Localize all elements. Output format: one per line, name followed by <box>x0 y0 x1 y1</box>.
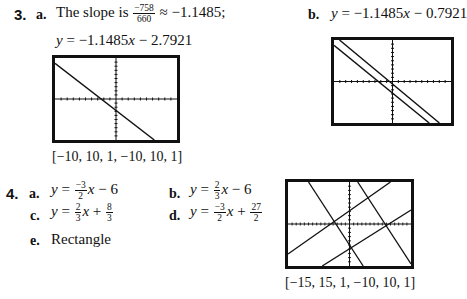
problem-3a-slope-text: The slope is −758660 ≈ −1.1485; <box>56 3 225 24</box>
problem-4e-label: e. <box>30 233 40 249</box>
window-label-3a: [−10, 10, 1, −10, 10, 1] <box>52 149 182 165</box>
problem-3b-label: b. <box>308 7 319 23</box>
eq-plus: + <box>233 203 249 219</box>
eq-tail: − 6 <box>94 181 117 197</box>
eq-tail: − 6 <box>228 181 251 197</box>
problem-4d-label: d. <box>169 208 180 224</box>
fraction-numerator: 27 <box>250 202 262 213</box>
fraction-denominator: 2 <box>250 213 262 223</box>
graph-3a <box>52 55 180 143</box>
line-3a <box>55 63 154 140</box>
graph-4-plot <box>288 182 411 266</box>
problem-4e-answer: Rectangle <box>51 231 111 248</box>
problem-4a-label: a. <box>29 186 40 202</box>
problem-4b-equation: y = 23x − 6 <box>190 180 252 201</box>
graph-3b-plot <box>334 40 451 123</box>
problem-3-number: 3. <box>14 6 27 23</box>
graph-3b <box>331 37 454 126</box>
slope-fraction: −32 <box>214 202 226 223</box>
eq-lhs: y <box>190 181 197 197</box>
eq-lhs: y <box>56 32 63 48</box>
problem-3b-equation: y = −1.1485x − 0.7921 <box>331 5 467 22</box>
eq-sign: = <box>58 181 74 197</box>
eq-tail: − 0.7921 <box>410 5 467 21</box>
problem-3a-equation: y = −1.1485x − 2.7921 <box>56 32 192 49</box>
eq-lhs: y <box>190 203 197 219</box>
problem-4d-equation: y = −32x + 272 <box>190 202 263 223</box>
fraction-denominator: 2 <box>214 213 226 223</box>
fraction-numerator: −758 <box>133 3 155 14</box>
slope-fraction: −32 <box>75 180 87 201</box>
problem-4b-label: b. <box>169 186 180 202</box>
constant-fraction: 83 <box>106 202 113 223</box>
eq-var: x <box>403 5 410 21</box>
eq-sign: = <box>58 203 74 219</box>
fraction-numerator: 8 <box>106 202 113 213</box>
fraction-numerator: 2 <box>75 202 82 213</box>
fraction-denominator: 660 <box>133 14 155 24</box>
eq-lhs: y <box>51 181 58 197</box>
eq-tail: − 2.7921 <box>135 32 192 48</box>
slope-fraction: −758660 <box>133 3 155 24</box>
fraction-denominator: 3 <box>106 213 113 223</box>
fraction-denominator: 3 <box>214 191 221 201</box>
fraction-denominator: 3 <box>75 213 82 223</box>
eq-lhs: y <box>331 5 338 21</box>
line-4b <box>322 210 411 266</box>
eq-plus: + <box>89 203 105 219</box>
constant-fraction: 272 <box>250 202 262 223</box>
problem-4c-equation: y = 23x + 83 <box>51 202 114 223</box>
fraction-denominator: 2 <box>75 191 87 201</box>
eq-sign: = <box>197 203 213 219</box>
line-3b-lower <box>334 45 429 123</box>
eq-var: x <box>128 32 135 48</box>
slope-fraction: 23 <box>214 180 221 201</box>
problem-3a-label: a. <box>36 7 47 23</box>
graph-3a-plot <box>55 58 177 140</box>
fraction-numerator: −3 <box>75 180 87 191</box>
eq-lhs: y <box>51 203 58 219</box>
problem-4c-label: c. <box>30 208 40 224</box>
fraction-numerator: −3 <box>214 202 226 213</box>
eq-sign: = <box>197 181 213 197</box>
slope-intro-text: The slope is <box>56 4 129 20</box>
line-4c <box>288 182 391 254</box>
graph-4 <box>285 179 414 269</box>
problem-4a-equation: y = −32x − 6 <box>51 180 118 201</box>
eq-rhs: = −1.1485 <box>338 5 404 21</box>
problem-4-number: 4. <box>6 185 19 202</box>
window-label-4: [−15, 15, 1, −10, 10, 1] <box>285 275 415 291</box>
eq-rhs: = −1.1485 <box>63 32 129 48</box>
slope-value: ≈ −1.1485; <box>160 4 226 20</box>
fraction-numerator: 2 <box>214 180 221 191</box>
slope-fraction: 23 <box>75 202 82 223</box>
